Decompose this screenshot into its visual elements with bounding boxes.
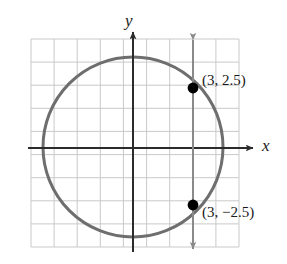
point-upper-intersection bbox=[188, 83, 199, 94]
y-axis-label: y bbox=[125, 12, 133, 29]
coordinate-plane-graphic bbox=[0, 0, 287, 264]
point-lower-intersection bbox=[188, 200, 199, 211]
x-axis-label: x bbox=[262, 137, 270, 154]
lower-point-label: (3, −2.5) bbox=[202, 205, 254, 220]
upper-point-label: (3, 2.5) bbox=[202, 73, 246, 88]
figure-canvas: y x (3, 2.5) (3, −2.5) bbox=[0, 0, 287, 264]
